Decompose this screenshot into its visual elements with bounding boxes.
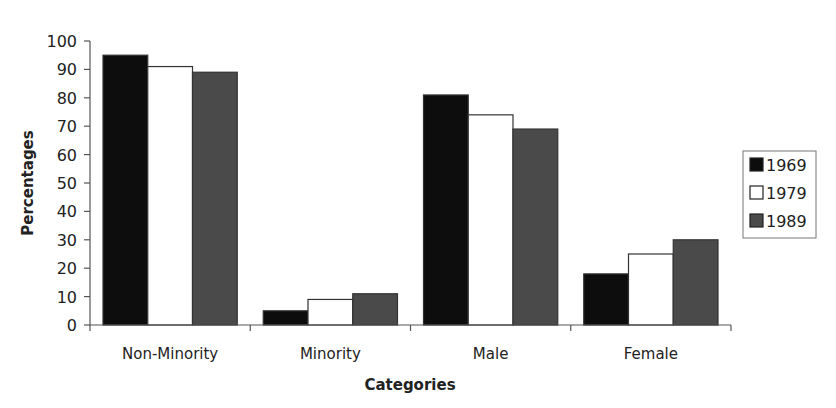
x-category-label: Minority [300,345,361,363]
bar-1989-non-minority [193,72,238,325]
legend-label-1979: 1979 [766,184,807,203]
y-tick-label: 90 [57,60,77,79]
bar-1989-male [513,129,558,325]
bar-1969-female [584,274,629,325]
legend-label-1989: 1989 [766,212,807,231]
x-category-label: Male [473,345,509,363]
bar-1989-minority [353,294,398,325]
y-tick-label: 30 [57,231,77,250]
bar-1969-non-minority [103,55,148,325]
y-tick-label: 20 [57,259,77,278]
bar-1979-non-minority [148,67,193,325]
y-tick-label: 50 [57,174,77,193]
legend-swatch-1969 [750,158,763,171]
y-tick-label: 80 [57,89,77,108]
x-axis: Non-MinorityMinorityMaleFemale [90,325,731,363]
y-tick-label: 10 [57,288,77,307]
bars [103,55,718,325]
y-axis-title: Percentages [19,130,37,236]
y-tick-label: 70 [57,117,77,136]
y-tick-label: 60 [57,146,77,165]
bar-chart: 0102030405060708090100 Non-MinorityMinor… [0,0,836,408]
legend-label-1969: 1969 [766,156,807,175]
bar-1979-male [468,115,513,325]
bar-1989-female [673,240,718,325]
bar-1969-male [424,95,469,325]
x-category-label: Non-Minority [122,345,218,363]
y-tick-label: 100 [46,32,77,51]
bar-1979-female [629,254,674,325]
y-tick-label: 40 [57,202,77,221]
y-tick-label: 0 [67,316,77,335]
x-category-label: Female [624,345,678,363]
x-axis-title: Categories [364,376,455,394]
bar-1979-minority [308,299,353,325]
legend: 196919791989 [743,151,816,238]
legend-swatch-1989 [750,214,763,227]
legend-swatch-1979 [750,186,763,199]
bar-1969-minority [263,311,308,325]
y-axis: 0102030405060708090100 [46,32,90,335]
